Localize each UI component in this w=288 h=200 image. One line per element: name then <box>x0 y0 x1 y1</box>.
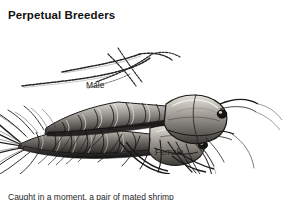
document-page: Perpetual Breeders <box>0 0 288 200</box>
page-title: Perpetual Breeders <box>8 8 115 22</box>
right-antennule <box>256 104 282 130</box>
body-text: Caught in a moment, a pair of mated shri… <box>8 192 280 200</box>
mating-shrimp-illustration <box>0 24 288 174</box>
label-female: Female <box>155 147 183 157</box>
shrimp-figure-svg <box>0 24 288 174</box>
label-male: Male <box>86 80 104 90</box>
